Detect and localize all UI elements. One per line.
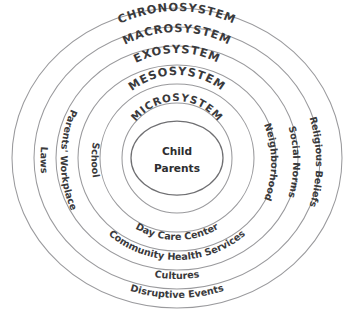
ring-center-child — [131, 121, 223, 195]
center-label-child: Child — [162, 145, 192, 157]
label-cultures: Cultures — [154, 268, 200, 281]
label-school: School — [89, 142, 101, 178]
center-label-parents: Parents — [154, 162, 200, 174]
diagram-canvas: CHRONOSYSTEM MACROSYSTEM EXOSYSTEM MESOS… — [0, 0, 353, 312]
ecological-systems-diagram: CHRONOSYSTEM MACROSYSTEM EXOSYSTEM MESOS… — [0, 0, 353, 312]
label-laws: Laws — [38, 146, 50, 174]
